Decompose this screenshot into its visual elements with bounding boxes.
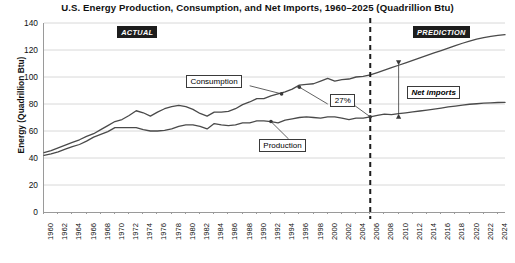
x-tick-mark — [341, 212, 342, 214]
x-tick-mark — [284, 212, 285, 214]
net-imports-label: Net imports — [407, 86, 460, 99]
x-tick-mark — [426, 212, 427, 214]
gap-percentage-label: 27% — [330, 94, 355, 107]
consumption-leader-arrowhead — [280, 92, 284, 96]
x-tick-label: 1964 — [74, 223, 83, 240]
x-tick-label: 1982 — [202, 223, 211, 240]
gap-leader-upper-arrowhead — [298, 85, 302, 89]
x-tick-label: 2016 — [443, 223, 452, 240]
x-tick-label: 1994 — [287, 223, 296, 240]
chart-title: U.S. Energy Production, Consumption, and… — [0, 2, 515, 13]
x-tick-mark — [313, 212, 314, 214]
x-tick-mark — [199, 212, 200, 214]
x-tick-mark — [398, 212, 399, 214]
x-tick-mark — [114, 212, 115, 214]
y-tick-label: 120 — [12, 45, 38, 55]
x-tick-mark — [298, 212, 299, 214]
x-tick-label: 1966 — [89, 223, 98, 240]
y-tick-label: 80 — [12, 99, 38, 109]
x-axis-tick-labels: 1960196219641966196819701972197419761978… — [43, 214, 504, 263]
x-tick-mark — [327, 212, 328, 214]
x-tick-mark — [454, 212, 455, 214]
x-tick-mark — [469, 212, 470, 214]
x-tick-mark — [483, 212, 484, 214]
x-tick-mark — [185, 212, 186, 214]
x-tick-mark — [171, 212, 172, 214]
x-tick-mark — [270, 212, 271, 214]
x-tick-mark — [100, 212, 101, 214]
plot-area — [43, 23, 505, 213]
x-tick-label: 1988 — [245, 223, 254, 240]
x-tick-label: 2002 — [344, 223, 353, 240]
x-tick-label: 1990 — [259, 223, 268, 240]
x-tick-label: 1960 — [46, 223, 55, 240]
x-tick-label: 1996 — [301, 223, 310, 240]
consumption-leader — [250, 86, 282, 94]
y-tick-label: 20 — [12, 180, 38, 190]
x-tick-mark — [156, 212, 157, 214]
x-tick-label: 2000 — [330, 223, 339, 240]
actual-period-badge: ACTUAL — [117, 26, 157, 38]
x-tick-label: 1968 — [103, 223, 112, 240]
x-tick-mark — [242, 212, 243, 214]
x-tick-mark — [355, 212, 356, 214]
y-tick-label: 100 — [12, 72, 38, 82]
x-tick-label: 2012 — [415, 223, 424, 240]
x-tick-label: 1980 — [188, 223, 197, 240]
x-tick-label: 1976 — [159, 223, 168, 240]
x-tick-mark — [440, 212, 441, 214]
x-tick-mark — [71, 212, 72, 214]
x-tick-mark — [213, 212, 214, 214]
gridlines — [44, 23, 505, 185]
production-leader — [271, 122, 289, 140]
gap-leader-upper — [299, 87, 327, 104]
x-tick-label: 2010 — [401, 223, 410, 240]
x-tick-label: 1972 — [131, 223, 140, 240]
y-axis-tick-labels: 020406080100120140 — [12, 0, 38, 263]
x-tick-label: 2004 — [358, 223, 367, 240]
production-leader-arrowhead — [269, 120, 273, 124]
x-tick-mark — [43, 212, 44, 214]
x-tick-label: 1962 — [60, 223, 69, 240]
x-tick-mark — [57, 212, 58, 214]
chart-svg — [44, 23, 505, 212]
x-tick-label: 1970 — [117, 223, 126, 240]
x-tick-mark — [227, 212, 228, 214]
x-tick-label: 1978 — [174, 223, 183, 240]
x-tick-mark — [142, 212, 143, 214]
x-tick-mark — [497, 212, 498, 214]
x-tick-mark — [369, 212, 370, 214]
x-tick-mark — [128, 212, 129, 214]
x-tick-label: 1986 — [230, 223, 239, 240]
y-tick-label: 40 — [12, 153, 38, 163]
y-tick-label: 0 — [12, 207, 38, 217]
x-tick-label: 1974 — [145, 223, 154, 240]
x-tick-mark — [86, 212, 87, 214]
x-tick-label: 2006 — [372, 223, 381, 240]
x-tick-label: 2014 — [429, 223, 438, 240]
x-tick-label: 2022 — [486, 223, 495, 240]
x-tick-mark — [412, 212, 413, 214]
y-tick-label: 60 — [12, 126, 38, 136]
x-tick-mark — [383, 212, 384, 214]
production-series-label: Production — [259, 139, 306, 152]
chart-container: U.S. Energy Production, Consumption, and… — [0, 0, 515, 263]
x-tick-label: 1992 — [273, 223, 282, 240]
x-tick-label: 2008 — [386, 223, 395, 240]
consumption-series-label: Consumption — [186, 75, 242, 88]
x-tick-mark — [256, 212, 257, 214]
x-tick-label: 1998 — [316, 223, 325, 240]
y-tick-label: 140 — [12, 18, 38, 28]
gap-leader-lower-arrowhead — [368, 115, 372, 119]
x-tick-label: 2024 — [500, 223, 509, 240]
x-tick-label: 2018 — [457, 223, 466, 240]
prediction-period-badge: PREDICTION — [413, 26, 470, 38]
x-tick-label: 2020 — [472, 223, 481, 240]
x-tick-label: 1984 — [216, 223, 225, 240]
